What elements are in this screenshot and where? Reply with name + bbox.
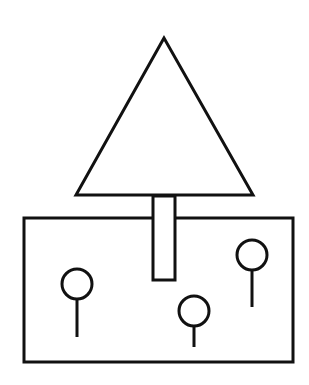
tree-box-diagram — [0, 0, 309, 385]
trunk-rectangle — [153, 196, 175, 280]
diagram-canvas — [0, 0, 309, 385]
